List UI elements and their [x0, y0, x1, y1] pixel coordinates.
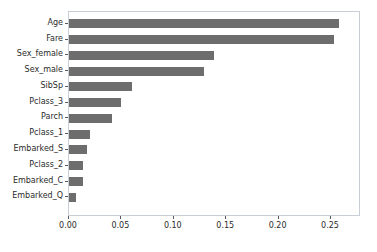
y-axis-label-sex_female: Sex_female	[17, 50, 63, 58]
y-axis-label-parch: Parch	[41, 113, 63, 121]
bar-row	[69, 158, 83, 174]
x-axis-label-0.00: 0.00	[48, 222, 88, 230]
bar-sex_female	[69, 51, 214, 60]
bar-pclass_2	[69, 161, 83, 170]
bar-row	[69, 126, 90, 142]
x-tick-0.10	[173, 216, 174, 219]
x-tick-0.05	[120, 216, 121, 219]
x-axis-label-0.05: 0.05	[100, 222, 140, 230]
bar-row	[69, 142, 87, 158]
bar-row	[69, 16, 339, 32]
y-axis-label-sex_male: Sex_male	[25, 66, 63, 74]
bar-pclass_1	[69, 130, 90, 139]
bar-age	[69, 19, 339, 28]
y-axis-label-pclass_3: Pclass_3	[29, 98, 63, 106]
bar-fare	[69, 35, 334, 44]
x-tick-0.15	[225, 216, 226, 219]
y-axis-label-pclass_1: Pclass_1	[29, 129, 63, 137]
bar-sibsp	[69, 82, 132, 91]
bar-row	[69, 32, 334, 48]
bar-parch	[69, 114, 112, 123]
x-tick-0.25	[330, 216, 331, 219]
y-axis-label-pclass_2: Pclass_2	[29, 161, 63, 169]
x-axis-label-0.20: 0.20	[258, 222, 298, 230]
bar-row	[69, 95, 121, 111]
y-axis-label-sibsp: SibSp	[40, 82, 63, 90]
x-tick-0.00	[68, 216, 69, 219]
x-axis-label-0.15: 0.15	[205, 222, 245, 230]
bar-row	[69, 47, 214, 63]
y-axis-label-embarked_s: Embarked_S	[13, 145, 63, 153]
bar-embarked_c	[69, 177, 83, 186]
bar-pclass_3	[69, 98, 121, 107]
x-axis-label-0.25: 0.25	[310, 222, 350, 230]
y-axis-label-embarked_q: Embarked_Q	[12, 192, 63, 200]
bar-row	[69, 79, 132, 95]
y-axis-label-age: Age	[48, 19, 63, 27]
y-axis-label-fare: Fare	[46, 35, 63, 43]
bar-row	[69, 174, 83, 190]
x-tick-0.20	[278, 216, 279, 219]
bar-row	[69, 189, 76, 205]
x-axis-label-0.10: 0.10	[153, 222, 193, 230]
plot-area	[68, 11, 360, 216]
bar-row	[69, 63, 204, 79]
bar-embarked_q	[69, 193, 76, 202]
bar-sex_male	[69, 67, 204, 76]
y-axis-label-embarked_c: Embarked_C	[13, 177, 63, 185]
bar-row	[69, 111, 112, 127]
bar-embarked_s	[69, 145, 87, 154]
bar-chart-figure: AgeFareSex_femaleSex_maleSibSpPclass_3Pa…	[0, 0, 377, 252]
